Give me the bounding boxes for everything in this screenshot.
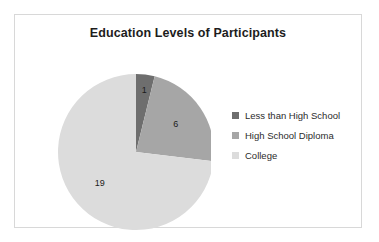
- legend-item-label: College: [245, 151, 277, 161]
- pie-chart-area: 1619: [29, 55, 211, 231]
- legend-item[interactable]: High School Diploma: [232, 126, 362, 145]
- chart-legend: Less than High SchoolHigh School Diploma…: [232, 106, 362, 166]
- pie-slice-value-label: 6: [173, 119, 178, 129]
- pie-slices: [58, 74, 211, 230]
- chart-frame: Education Levels of Participants 1619 Le…: [14, 14, 362, 228]
- pie-slice-value-label: 1: [142, 85, 147, 95]
- pie-slice-value-label: 19: [95, 178, 105, 188]
- pie-chart-svg: 1619: [29, 55, 211, 231]
- legend-swatch-icon: [232, 152, 239, 159]
- legend-swatch-icon: [232, 112, 239, 119]
- legend-item-label: Less than High School: [245, 111, 340, 121]
- chart-title: Education Levels of Participants: [15, 26, 361, 40]
- legend-item[interactable]: College: [232, 146, 362, 165]
- legend-item-label: High School Diploma: [245, 131, 334, 141]
- legend-swatch-icon: [232, 132, 239, 139]
- legend-item[interactable]: Less than High School: [232, 106, 362, 125]
